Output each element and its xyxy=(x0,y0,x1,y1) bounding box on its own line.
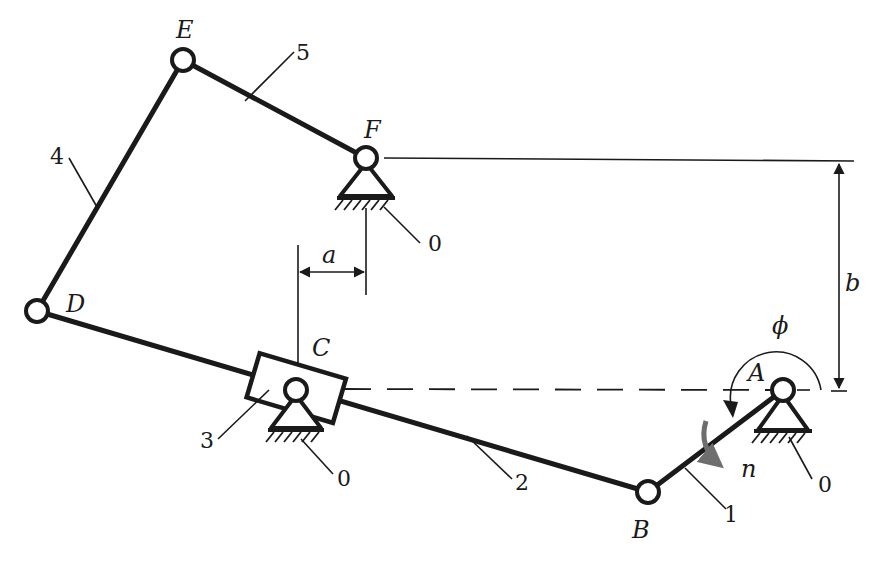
leader-0-c xyxy=(301,439,333,474)
joint-label-b: B xyxy=(631,516,650,544)
joint-f xyxy=(355,147,377,169)
joint-a xyxy=(772,379,794,401)
link-label-1: 1 xyxy=(724,502,738,527)
joint-b xyxy=(637,481,659,503)
leader-0-a xyxy=(789,437,812,479)
joint-label-a: A xyxy=(746,359,765,387)
dimension-b-label: b xyxy=(845,269,860,297)
angle-phi-arrowhead xyxy=(723,400,738,418)
link-2 xyxy=(37,311,648,492)
joint-label-e: E xyxy=(175,16,194,44)
leader-3 xyxy=(218,390,269,439)
reference-line-f xyxy=(384,158,854,161)
ground-label-a: 0 xyxy=(818,472,832,497)
link-5 xyxy=(183,60,366,158)
joint-label-d: D xyxy=(65,290,85,318)
joint-e xyxy=(172,49,194,71)
dimension-a-label: a xyxy=(322,241,336,269)
leader-5 xyxy=(245,52,294,101)
joint-label-c: C xyxy=(312,334,330,362)
link-label-2: 2 xyxy=(515,470,529,495)
link-4 xyxy=(37,60,183,311)
ground-label-f: 0 xyxy=(428,231,442,256)
leader-1 xyxy=(685,468,726,509)
leader-4 xyxy=(69,158,97,207)
link-label-4: 4 xyxy=(50,144,64,169)
link-label-5: 5 xyxy=(296,40,310,65)
joint-d xyxy=(26,300,48,322)
angle-phi-label: ϕ xyxy=(772,312,788,340)
link-label-3: 3 xyxy=(200,428,214,453)
joint-label-f: F xyxy=(363,116,382,144)
mechanism-diagram: b a 0 0 3 xyxy=(0,0,880,565)
rotation-n-label: n xyxy=(741,455,756,483)
joint-c xyxy=(285,379,307,401)
ground-label-c: 0 xyxy=(337,466,351,491)
leader-0-f xyxy=(384,207,420,243)
dashed-line-c-a xyxy=(345,389,770,390)
